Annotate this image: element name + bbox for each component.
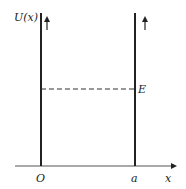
right-wall-label: a — [131, 172, 138, 185]
energy-label: E — [137, 83, 146, 96]
y-axis-label: U(x) — [14, 11, 38, 24]
origin-label: O — [36, 172, 45, 185]
x-axis-label: x — [165, 172, 172, 185]
potential-well-diagram: U(x) E O a x — [0, 0, 186, 189]
